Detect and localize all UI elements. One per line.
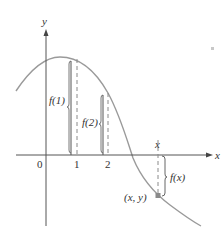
graph-canvas: [0, 0, 223, 237]
function-curve: [16, 57, 201, 226]
x-marker-label: x: [155, 139, 160, 150]
fx-bracket-icon: [162, 156, 167, 196]
point-label: (x, y): [124, 192, 147, 203]
tick-label-2: 2: [105, 159, 111, 170]
function-graph-figure: y x 0 1 2 f(1) f(2) f(x) x (x, y): [0, 0, 223, 237]
fx-label: f(x): [170, 172, 185, 183]
f1-brace-icon: [67, 61, 71, 153]
f2-brace-icon: [99, 95, 103, 153]
f1-label: f(1): [49, 95, 65, 106]
x-axis-label: x: [215, 150, 220, 161]
f2-label: f(2): [82, 117, 98, 128]
x-axis-arrow-icon: [206, 153, 213, 158]
y-axis-arrow-icon: [44, 29, 49, 36]
tick-label-1: 1: [74, 159, 80, 170]
origin-label: 0: [37, 159, 43, 170]
y-axis-label: y: [42, 16, 47, 27]
point-marker: [156, 193, 161, 198]
speck-mark: [211, 47, 214, 50]
